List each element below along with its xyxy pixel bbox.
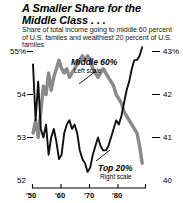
top-label-leader-line <box>96 150 110 161</box>
plot-area <box>0 0 183 203</box>
x-axis-tick-1970: '70 <box>84 191 94 200</box>
x-axis-tick-1960: '60 <box>55 191 65 200</box>
y-axis-right-ticks <box>152 52 160 138</box>
x-axis-tick-1980: '80 <box>112 191 122 200</box>
x-axis <box>32 184 146 188</box>
series-scale-top-20: Right scale <box>100 173 132 180</box>
chart-figure: A Smaller Share for the Middle Class . .… <box>0 0 183 203</box>
series-label-middle-60: Middle 60% <box>71 57 117 67</box>
series-scale-middle-60: Left scale <box>74 67 101 74</box>
series-label-top-20: Top 20% <box>98 163 133 173</box>
x-axis-tick-1950: '50 <box>26 191 36 200</box>
